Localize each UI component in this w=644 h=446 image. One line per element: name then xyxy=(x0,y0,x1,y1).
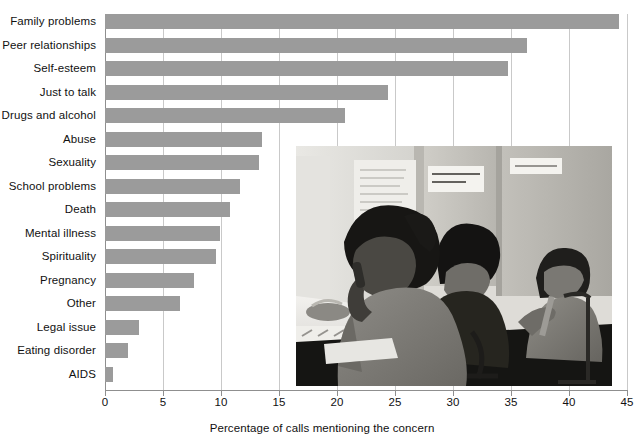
category-label: Death xyxy=(0,202,96,217)
bar xyxy=(105,296,180,311)
bar xyxy=(105,38,527,53)
bar xyxy=(105,85,388,100)
x-tick-label: 5 xyxy=(143,396,183,408)
bar-row xyxy=(105,132,627,147)
bar xyxy=(105,179,240,194)
x-axis-line xyxy=(105,390,628,391)
x-tick-label: 30 xyxy=(433,396,473,408)
bar xyxy=(105,14,619,29)
category-label: Sexuality xyxy=(0,155,96,170)
bar xyxy=(105,132,262,147)
bar-row xyxy=(105,38,627,53)
x-tick-label: 35 xyxy=(491,396,531,408)
category-label: Just to talk xyxy=(0,85,96,100)
category-label: Other xyxy=(0,296,96,311)
bar xyxy=(105,320,139,335)
bar-row xyxy=(105,85,627,100)
category-label: Spirituality xyxy=(0,249,96,264)
bar-row xyxy=(105,61,627,76)
category-label: Abuse xyxy=(0,132,96,147)
category-label: Mental illness xyxy=(0,226,96,241)
category-label: Family problems xyxy=(0,14,96,29)
bar-row xyxy=(105,108,627,123)
gridline-45 xyxy=(627,14,628,390)
bar xyxy=(105,343,128,358)
x-tick-label: 40 xyxy=(549,396,589,408)
bar xyxy=(105,367,113,382)
x-tick-label: 10 xyxy=(201,396,241,408)
category-label: Drugs and alcohol xyxy=(0,108,96,123)
bar-chart: 051015202530354045 Percentage of calls m… xyxy=(0,0,644,446)
x-tick-label: 45 xyxy=(607,396,644,408)
category-label: AIDS xyxy=(0,367,96,382)
bar xyxy=(105,202,230,217)
bar-row xyxy=(105,14,627,29)
category-label: School problems xyxy=(0,179,96,194)
x-axis-title: Percentage of calls mentioning the conce… xyxy=(0,422,644,434)
category-label: Pregnancy xyxy=(0,273,96,288)
category-label: Self-esteem xyxy=(0,61,96,76)
x-tick-label: 0 xyxy=(85,396,125,408)
bar xyxy=(105,155,259,170)
inset-photograph xyxy=(296,146,612,386)
bar xyxy=(105,108,345,123)
bar xyxy=(105,273,194,288)
x-tick-label: 25 xyxy=(375,396,415,408)
x-tick-label: 15 xyxy=(259,396,299,408)
bar xyxy=(105,249,216,264)
category-label: Peer relationships xyxy=(0,38,96,53)
bar xyxy=(105,61,508,76)
bar xyxy=(105,226,220,241)
category-label: Legal issue xyxy=(0,320,96,335)
category-label: Eating disorder xyxy=(0,343,96,358)
photo-image xyxy=(296,146,612,386)
x-tick-label: 20 xyxy=(317,396,357,408)
